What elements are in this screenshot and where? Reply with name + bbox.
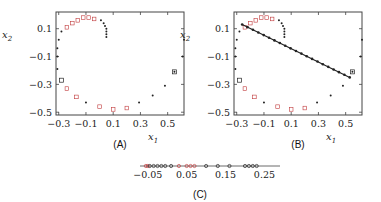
data-point [330,95,332,97]
y-tick-label: 0.1 [37,23,52,34]
y-tick-label: −0.1 [29,51,52,62]
projected-point [327,66,330,69]
projected-point [338,71,341,74]
x-tick-label: 0.1 [284,118,299,129]
projected-point [300,52,303,55]
projected-point [246,26,249,29]
data-point [238,30,240,32]
projected-point [295,50,298,53]
projected-point [241,23,244,26]
panel-label-c: (C) [193,189,207,200]
data-point [56,68,58,70]
data-point [289,108,293,112]
data-point [237,78,241,82]
data-point [81,16,85,20]
y-tick-label: 0.1 [215,23,230,34]
data-point [105,28,107,30]
projected-point [305,55,308,58]
projected-point [268,36,271,39]
data-point [60,30,62,32]
x-tick-label: −0.3 [225,118,248,129]
data-point [234,47,236,49]
y-tick-label: −0.3 [207,79,230,90]
data-point [56,56,58,58]
data-point [92,17,96,21]
data-point [138,101,140,103]
data-point [253,95,257,99]
data-point [71,21,75,25]
x-tick-label: −0.05 [133,169,162,180]
data-point [87,16,91,20]
y-axis-label: x2 [180,29,191,43]
projected-point [311,58,314,61]
projected-point [262,34,265,37]
data-point [182,56,184,58]
data-point [281,22,283,24]
data-point [75,95,79,99]
data-point [111,108,115,112]
panel-label-b: (B) [291,139,304,150]
data-point [173,71,175,73]
data-point [105,33,107,35]
x-tick-label: 0.5 [338,118,353,129]
projected-point [348,76,351,79]
data-point [283,36,285,38]
data-point [234,68,236,70]
data-point [351,71,353,73]
x-tick-label: 0.05 [176,169,197,180]
projected-point [279,42,282,45]
data-point [282,25,284,27]
data-point [105,30,107,32]
data-point [58,39,60,41]
data-point [236,39,238,41]
x-axis-label: x1 [326,131,336,145]
x-axis-label: x1 [148,131,158,145]
data-point [276,105,280,109]
projected-point [252,29,255,32]
data-point [360,56,362,58]
projected-point [332,68,335,71]
data-point [65,26,69,30]
data-point [56,47,58,49]
data-point [76,19,80,23]
data-point [316,101,318,103]
data-point [85,101,87,103]
x-tick-label: −0.1 [252,118,275,129]
data-point [65,87,69,91]
y-axis-label: x2 [2,29,13,43]
data-point [100,19,102,21]
projected-point [343,73,346,76]
x-tick-label: 0.3 [311,118,326,129]
y-tick-label: −0.3 [29,79,52,90]
projected-point [284,44,287,47]
data-point [361,39,363,41]
data-point [278,19,280,21]
data-point [164,85,166,87]
projected-point [273,39,276,42]
data-point [283,33,285,35]
data-point [98,105,102,109]
data-point [265,16,269,20]
data-point [234,56,236,58]
panel-label-a: (A) [113,139,126,150]
data-point [103,22,105,24]
y-tick-label: −0.1 [207,51,230,62]
data-point [270,17,274,21]
projected-point [316,60,319,63]
figure: −0.3−0.10.10.30.50.1−0.1−0.3−0.5x1x2 −0.… [0,0,381,202]
data-point [125,106,129,110]
data-point [259,16,263,20]
x-tick-label: 0.15 [215,169,236,180]
data-point [105,36,107,38]
scatter-panel-a: −0.3−0.10.10.30.50.1−0.1−0.3−0.5x1x2 [2,12,185,145]
y-tick-label: −0.5 [29,107,52,118]
projected-point [322,63,325,66]
data-point [59,78,63,82]
data-point [263,101,265,103]
scatter-panel-b: −0.3−0.10.10.30.50.1−0.1−0.3−0.5x1x2 [180,12,363,145]
data-point [152,95,154,97]
data-point [254,19,258,23]
data-point [283,30,285,32]
data-point [303,106,307,110]
x-tick-label: −0.3 [47,118,70,129]
